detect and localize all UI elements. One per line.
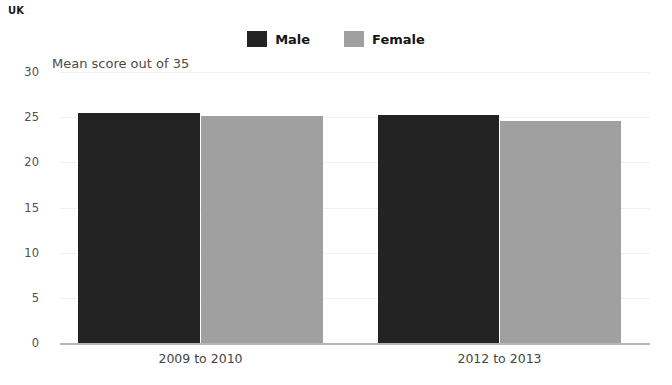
bar-female-2[interactable] <box>500 121 621 343</box>
y-tick-label: 5 <box>5 291 39 305</box>
bar-chart-plot-area: Mean score out of 35 051015202530 2009 t… <box>0 0 672 385</box>
y-tick-label: 30 <box>5 65 39 79</box>
y-tick-label: 20 <box>5 155 39 169</box>
y-axis-note: Mean score out of 35 <box>52 56 189 71</box>
y-tick-label: 15 <box>5 201 39 215</box>
y-tick-label: 25 <box>5 110 39 124</box>
y-tick-label: 0 <box>5 336 39 350</box>
x-axis-label: 2012 to 2013 <box>457 351 541 366</box>
bar-female-1[interactable] <box>201 116 323 343</box>
x-axis-line <box>60 343 650 345</box>
x-axis-label: 2009 to 2010 <box>158 351 242 366</box>
bar-male-1[interactable] <box>78 113 200 343</box>
gridline-30 <box>60 72 650 73</box>
bar-male-2[interactable] <box>378 115 499 343</box>
y-tick-label: 10 <box>5 246 39 260</box>
